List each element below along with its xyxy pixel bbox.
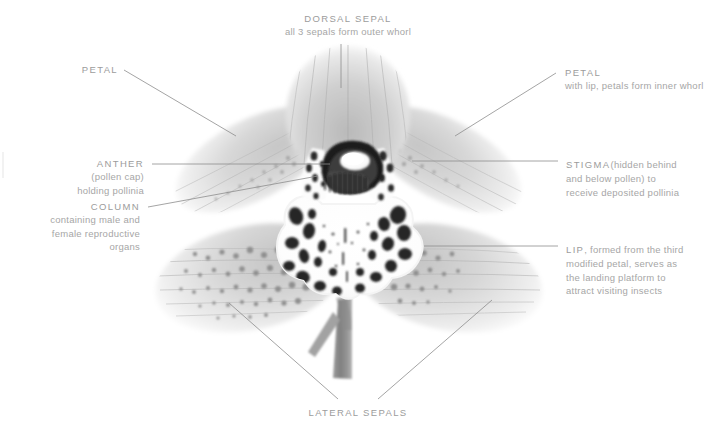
lateral-sepals-heading: LATERAL SEPALS <box>258 406 458 419</box>
label-column: COLUMN containing male and female reprod… <box>0 200 140 254</box>
label-lip: LIP, formed from the third modified peta… <box>566 239 724 298</box>
lip-line2: modified petal, serves as <box>566 257 724 271</box>
anther-line2: (pollen cap) <box>0 170 144 184</box>
stigma-line3: receive deposited pollinia <box>566 186 724 200</box>
lip-line1-rest: , formed from the third <box>584 244 683 255</box>
petal-left-heading: PETAL <box>0 63 118 76</box>
stigma-line1-rest: (hidden behind <box>611 159 677 170</box>
stigma-line2: and below pollen) to <box>566 172 724 186</box>
label-stigma: STIGMA(hidden behind and below pollen) t… <box>566 154 724 199</box>
label-petal-right: PETAL with lip, petals form inner whorl <box>565 66 723 93</box>
stigma <box>325 171 369 194</box>
stigma-heading: STIGMA <box>566 159 611 170</box>
column-line2: containing male and <box>0 213 140 227</box>
lip-heading: LIP <box>566 244 584 255</box>
anther-line3: holding pollinia <box>0 184 144 198</box>
anther-heading: ANTHER <box>0 157 144 170</box>
label-dorsal-sepal: DORSAL SEPAL all 3 sepals form outer who… <box>232 12 464 39</box>
column-line3: female reproductive <box>0 227 140 241</box>
dorsal-sepal-heading: DORSAL SEPAL <box>232 12 464 25</box>
column-heading: COLUMN <box>0 200 140 213</box>
flower-stem <box>308 296 352 379</box>
petal-right-heading: PETAL <box>565 66 723 79</box>
diagram-canvas: DORSAL SEPAL all 3 sepals form outer who… <box>0 0 724 440</box>
petal-right-description: with lip, petals form inner whorl <box>565 79 723 93</box>
label-petal-left: PETAL <box>0 63 118 76</box>
lip-line3: the landing platform to <box>566 271 724 285</box>
label-lateral-sepals: LATERAL SEPALS <box>258 406 458 419</box>
lip-line4: attract visiting insects <box>566 284 724 298</box>
label-anther: ANTHER (pollen cap) holding pollinia <box>0 157 144 197</box>
dorsal-sepal-description: all 3 sepals form outer whorl <box>232 25 464 39</box>
column-line4: organs <box>0 240 140 254</box>
